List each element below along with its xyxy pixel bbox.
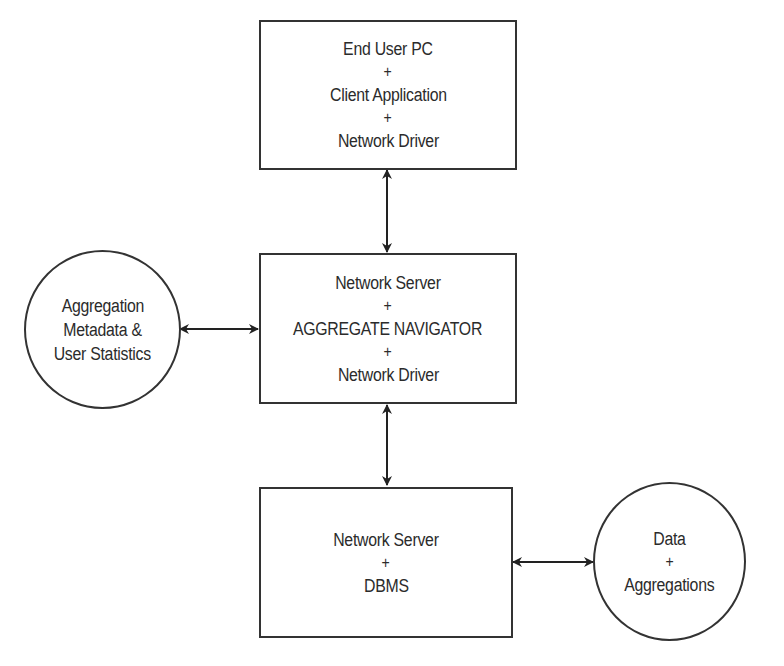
aggregate-navigator-box: Network Server + AGGREGATE NAVIGATOR + N… — [259, 253, 517, 404]
plus-sign: + — [384, 295, 392, 317]
plus-sign: + — [384, 61, 392, 83]
node-label: End User PC — [343, 37, 433, 61]
plus-sign: + — [666, 551, 674, 573]
node-label: AGGREGATE NAVIGATOR — [293, 317, 482, 341]
plus-sign: + — [384, 341, 392, 363]
node-label: Client Application — [330, 83, 447, 107]
node-label: Aggregations — [624, 573, 714, 597]
node-label: DBMS — [364, 574, 409, 598]
node-label: Network Server — [333, 528, 438, 552]
plus-sign: + — [382, 552, 390, 574]
end-user-pc-box: End User PC + Client Application + Netwo… — [259, 20, 517, 170]
node-label: Network Server — [335, 271, 440, 295]
aggregation-metadata-circle: Aggregation Metadata & User Statistics — [24, 250, 181, 409]
node-label: Metadata & — [63, 318, 141, 342]
dbms-server-box: Network Server + DBMS — [259, 487, 513, 638]
node-label: Aggregation — [61, 294, 144, 318]
node-label: Network Driver — [337, 129, 438, 153]
node-label: Data — [653, 527, 685, 551]
data-aggregations-circle: Data + Aggregations — [593, 482, 746, 641]
plus-sign: + — [384, 107, 392, 129]
node-label: Network Driver — [337, 363, 438, 387]
node-label: User Statistics — [54, 342, 151, 366]
